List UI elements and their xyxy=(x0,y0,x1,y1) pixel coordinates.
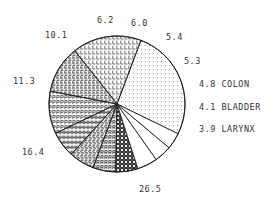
slice-label: 26.5 xyxy=(139,184,161,194)
slice-label: 5.3 xyxy=(184,56,201,66)
pie-chart: 26.516.411.310.16.26.05.45.34.8 COLON4.1… xyxy=(0,0,273,211)
slice-label: 6.0 xyxy=(131,18,148,28)
slice-label: 16.4 xyxy=(22,147,44,157)
slice-label: 5.4 xyxy=(166,32,183,42)
slice-label: 11.3 xyxy=(13,76,35,86)
slice-label: 3.9 LARYNX xyxy=(199,124,256,134)
slice-label: 4.8 COLON xyxy=(199,79,250,89)
slice-label: 10.1 xyxy=(45,30,67,40)
pie-slices xyxy=(49,36,185,172)
slice-label: 4.1 BLADDER xyxy=(199,102,261,112)
slice-label: 6.2 xyxy=(97,15,114,25)
